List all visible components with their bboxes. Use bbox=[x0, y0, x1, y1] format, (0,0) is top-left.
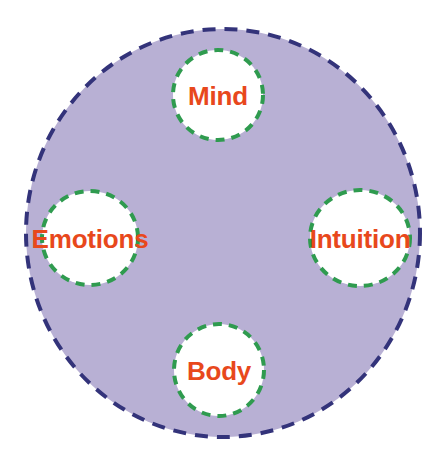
diagram-canvas: Mind Emotions Intuition Body bbox=[0, 0, 446, 466]
inner-circle-emotions[interactable] bbox=[42, 191, 138, 285]
inner-circle-body[interactable] bbox=[174, 324, 264, 416]
inner-circle-mind[interactable] bbox=[173, 50, 263, 140]
concept-circles-diagram bbox=[0, 0, 446, 466]
inner-circle-intuition[interactable] bbox=[310, 190, 410, 286]
